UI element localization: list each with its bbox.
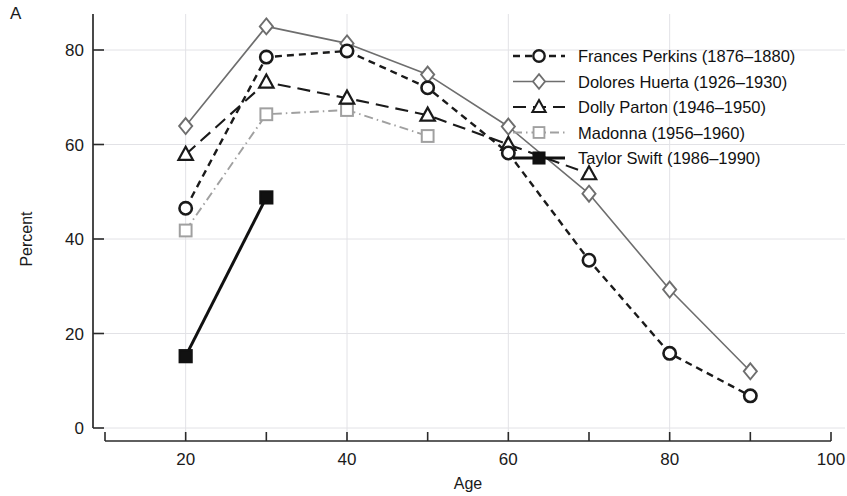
data-point-marker	[421, 67, 434, 83]
data-point-marker	[502, 147, 514, 159]
data-point-marker	[260, 192, 272, 204]
series-3	[180, 104, 434, 236]
data-point-marker	[582, 166, 596, 179]
data-point-marker	[421, 82, 433, 94]
data-point-marker	[341, 104, 353, 116]
data-point-marker	[180, 350, 192, 362]
y-axis: 020406080Percent	[18, 14, 104, 438]
legend-item-3[interactable]: Madonna (1956–1960)	[513, 124, 745, 142]
legend-label: Taylor Swift (1986–1990)	[578, 149, 761, 167]
x-tick-label: 60	[499, 450, 518, 469]
data-point-marker	[341, 45, 353, 57]
x-tick-label: 100	[817, 450, 845, 469]
data-point-marker	[422, 130, 434, 142]
legend: Frances Perkins (1876–1880)Dolores Huert…	[513, 47, 795, 167]
legend-item-1[interactable]: Dolores Huerta (1926–1930)	[513, 73, 787, 91]
y-tick-label: 80	[65, 41, 84, 60]
x-axis: 20406080100Age	[105, 432, 845, 492]
y-tick-label: 0	[75, 419, 84, 438]
data-point-marker	[533, 50, 544, 61]
legend-label: Frances Perkins (1876–1880)	[578, 47, 795, 65]
data-point-marker	[180, 225, 192, 237]
legend-item-4[interactable]: Taylor Swift (1986–1990)	[513, 149, 761, 167]
series-4	[180, 192, 272, 363]
y-tick-label: 60	[65, 136, 84, 155]
series-line	[186, 197, 267, 356]
line-chart: 020406080Percent20406080100AgeFrances Pe…	[0, 0, 847, 496]
legend-label: Dolly Parton (1946–1950)	[578, 98, 766, 116]
data-point-marker	[179, 202, 191, 214]
chart-panel: A 020406080Percent20406080100AgeFrances …	[0, 0, 847, 496]
series-line	[186, 110, 428, 230]
y-tick-label: 20	[65, 325, 84, 344]
y-axis-title: Percent	[18, 211, 35, 267]
data-point-marker	[534, 127, 545, 138]
x-tick-label: 20	[176, 450, 195, 469]
legend-item-2[interactable]: Dolly Parton (1946–1950)	[513, 98, 766, 116]
data-point-marker	[260, 51, 272, 63]
data-point-marker	[502, 119, 515, 135]
series-line	[186, 82, 589, 174]
data-point-marker	[583, 254, 595, 266]
data-point-marker	[534, 153, 545, 164]
data-point-marker	[533, 74, 545, 89]
data-point-marker	[663, 347, 675, 359]
x-tick-label: 80	[660, 450, 679, 469]
data-point-marker	[744, 390, 756, 402]
data-point-marker	[259, 75, 273, 88]
data-point-marker	[260, 108, 272, 120]
x-axis-title: Age	[454, 475, 483, 492]
x-tick-label: 40	[338, 450, 357, 469]
legend-label: Dolores Huerta (1926–1930)	[578, 73, 787, 91]
legend-label: Madonna (1956–1960)	[578, 124, 745, 142]
y-tick-label: 40	[65, 230, 84, 249]
